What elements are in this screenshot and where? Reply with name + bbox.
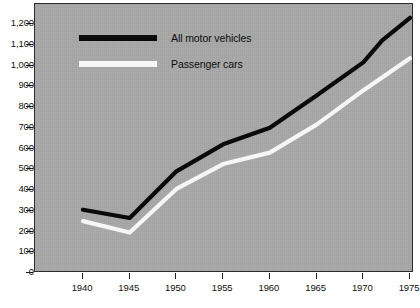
x-tick-label: 1960	[258, 282, 279, 293]
y-tick-label: 900	[0, 81, 34, 91]
y-tick-label: 500	[0, 164, 34, 174]
x-tick-mark	[269, 273, 270, 279]
x-tick-label: 1945	[118, 282, 139, 293]
y-tick-label: 400	[0, 184, 34, 194]
series-line-passenger-cars	[83, 58, 410, 232]
x-tick-mark	[409, 273, 410, 279]
plot-area: All motor vehicles Passenger cars	[34, 3, 413, 272]
y-tick-label: 0	[0, 267, 34, 277]
x-tick-mark	[129, 273, 130, 279]
x-tick-mark	[82, 273, 83, 279]
y-tick-label: 700	[0, 122, 34, 132]
x-tick-label: 1955	[212, 282, 233, 293]
y-axis: 01002003004005006007008009001,0001,1001,…	[0, 0, 34, 308]
x-tick-label: 1965	[305, 282, 326, 293]
series-line-all-motor-vehicles	[83, 18, 410, 218]
x-tick-mark	[222, 273, 223, 279]
series-canvas	[35, 4, 413, 272]
x-tick-label: 1975	[399, 282, 420, 293]
line-chart: 01002003004005006007008009001,0001,1001,…	[0, 0, 420, 308]
x-tick-mark	[362, 273, 363, 279]
x-tick-label: 1970	[352, 282, 373, 293]
y-tick-label: 200	[0, 226, 34, 236]
x-tick-mark	[175, 273, 176, 279]
x-tick-label: 1950	[165, 282, 186, 293]
y-tick-label: 600	[0, 143, 34, 153]
x-tick-label: 1940	[72, 282, 93, 293]
y-tick-label: 800	[0, 101, 34, 111]
y-tick-label: 100	[0, 247, 34, 257]
y-tick-label: 300	[0, 205, 34, 215]
y-tick-label: 1,000	[0, 60, 34, 70]
y-tick-label: 1,200	[0, 18, 34, 28]
y-tick-label: 1,100	[0, 39, 34, 49]
x-tick-mark	[316, 273, 317, 279]
